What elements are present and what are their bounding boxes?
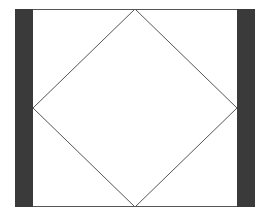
frame-outline bbox=[16, 10, 255, 207]
diamond-shape bbox=[33, 9, 237, 207]
left-bar bbox=[15, 9, 33, 207]
diagram-canvas bbox=[0, 0, 268, 214]
right-bar bbox=[237, 9, 255, 207]
